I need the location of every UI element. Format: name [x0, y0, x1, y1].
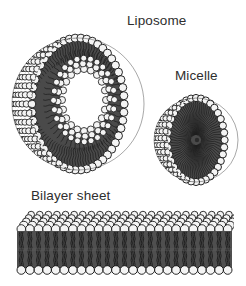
label-bilayer: Bilayer sheet: [31, 189, 110, 203]
liposome-group: [10, 34, 146, 174]
label-micelle: Micelle: [175, 69, 218, 83]
lipid-structures-figure: Liposome Micelle Bilayer sheet: [0, 0, 246, 286]
label-liposome: Liposome: [127, 14, 186, 28]
micelle-group: [152, 94, 240, 185]
lipid-structures-artwork: [0, 0, 246, 286]
bilayer-group: [17, 211, 241, 274]
